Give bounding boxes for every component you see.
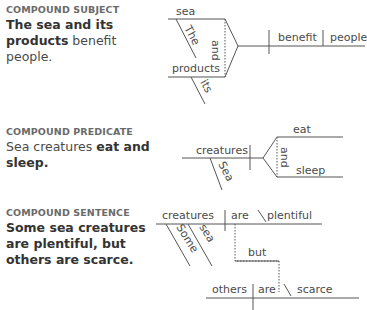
svg-text:and: and (278, 147, 291, 168)
svg-text:creatures: creatures (196, 144, 248, 157)
svg-text:products: products (172, 62, 220, 75)
svg-text:but: but (248, 246, 267, 259)
svg-text:eat: eat (293, 123, 312, 136)
svg-text:creatures: creatures (162, 209, 214, 222)
svg-text:its: its (197, 77, 215, 95)
svg-text:Some: Some (173, 222, 201, 256)
diagram-compound-subject: sea products and The its benefit people (168, 5, 367, 104)
svg-text:are: are (231, 209, 249, 222)
svg-text:sea: sea (196, 222, 217, 245)
diagram-compound-predicate: creatures Sea eat sleep and (182, 123, 343, 190)
svg-text:and: and (209, 40, 222, 61)
svg-text:people: people (330, 31, 367, 44)
svg-text:benefit: benefit (278, 31, 317, 44)
sentence-diagrams: sea products and The its benefit people … (0, 0, 367, 310)
svg-text:others: others (212, 283, 247, 296)
svg-text:plentiful: plentiful (267, 209, 312, 222)
svg-text:scarce: scarce (297, 283, 333, 296)
svg-text:are: are (258, 283, 276, 296)
svg-text:sleep: sleep (296, 164, 325, 177)
diagram-compound-sentence: creatures are plentiful Some sea but oth… (156, 209, 359, 310)
svg-text:sea: sea (176, 5, 195, 18)
